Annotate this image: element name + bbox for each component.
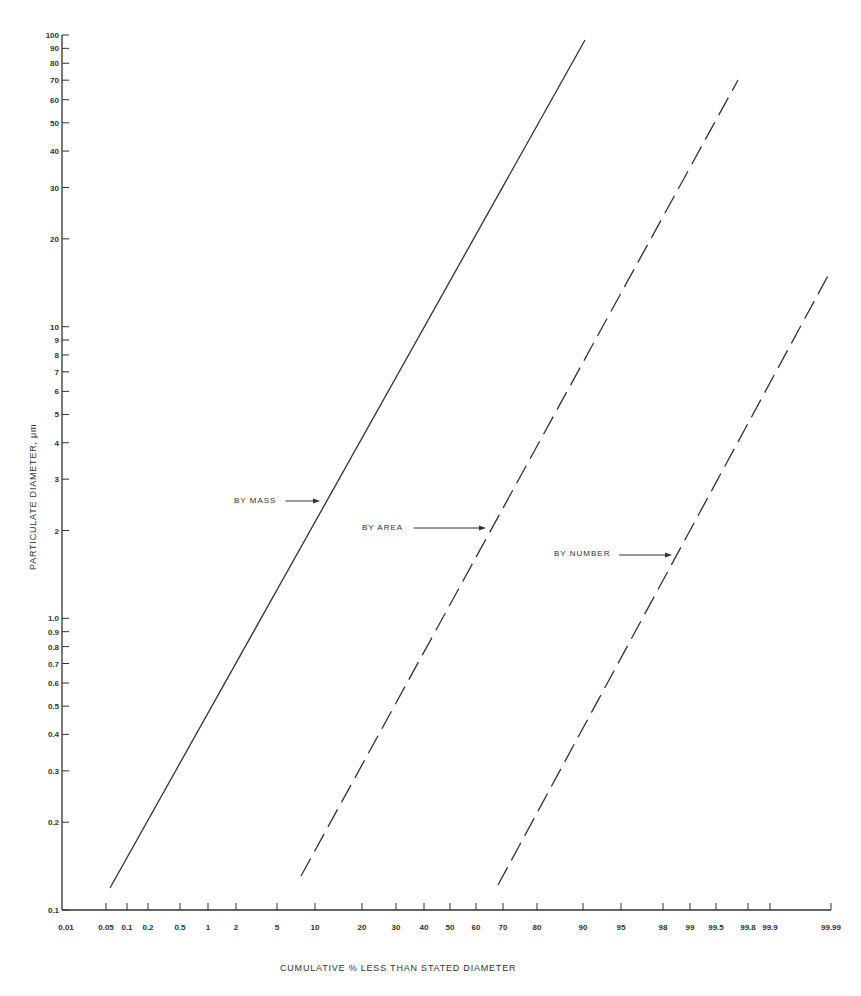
y-axis-title: PARTICULATE DIAMETER, μm — [28, 424, 38, 570]
series-lines — [110, 40, 830, 888]
x-tick-label: 99.9 — [762, 923, 778, 932]
series-line-by-number — [498, 272, 830, 885]
x-tick-label: 99.5 — [708, 923, 724, 932]
x-tick-label: 20 — [358, 923, 367, 932]
y-tick-label: 0.8 — [48, 643, 60, 652]
x-tick-label: 50 — [446, 923, 455, 932]
particle-size-chart: 100908070605040302010987654321.00.90.80.… — [0, 0, 861, 996]
x-tick-label: 1 — [206, 923, 211, 932]
x-tick-label: 80 — [533, 923, 542, 932]
y-tick-label: 0.9 — [48, 628, 60, 637]
y-tick-label: 30 — [50, 184, 59, 193]
axes — [62, 35, 831, 910]
y-tick-label: 0.5 — [48, 702, 60, 711]
x-tick-label: 0.2 — [142, 923, 154, 932]
y-tick-label: 9 — [55, 336, 60, 345]
y-tick-label: 70 — [50, 76, 59, 85]
x-tick-label: 0.01 — [58, 923, 74, 932]
y-tick-label: 0.1 — [48, 906, 60, 915]
x-tick-label: 0.05 — [98, 923, 114, 932]
label-by-number: BY NUMBER — [554, 549, 610, 558]
y-tick-label: 0.3 — [48, 767, 60, 776]
y-tick-label: 100 — [46, 31, 60, 40]
x-tick-label: 99.8 — [740, 923, 756, 932]
x-tick-label: 60 — [472, 923, 481, 932]
y-tick-label: 10 — [50, 323, 59, 332]
x-tick-label: 90 — [579, 923, 588, 932]
y-tick-label: 7 — [55, 368, 60, 377]
x-tick-label: 5 — [275, 923, 280, 932]
y-tick-label: 4 — [55, 439, 60, 448]
x-tick-label: 30 — [392, 923, 401, 932]
y-tick-label: 8 — [55, 351, 60, 360]
x-tick-label: 2 — [234, 923, 239, 932]
x-axis-title: CUMULATIVE % LESS THAN STATED DIAMETER — [280, 963, 516, 973]
x-axis-ticks: 0.010.050.10.20.512510203040506070809095… — [58, 903, 841, 932]
x-tick-label: 40 — [420, 923, 429, 932]
label-by-mass: BY MASS — [234, 496, 276, 505]
y-tick-label: 40 — [50, 147, 59, 156]
y-tick-label: 20 — [50, 235, 59, 244]
y-tick-label: 6 — [55, 387, 60, 396]
y-tick-label: 5 — [55, 410, 60, 419]
y-tick-label: 0.6 — [48, 679, 60, 688]
y-tick-label: 1.0 — [48, 614, 60, 623]
arrowhead-icon — [479, 526, 486, 531]
x-tick-label: 0.1 — [121, 923, 133, 932]
x-tick-label: 98 — [659, 923, 668, 932]
series-line-by-area — [301, 80, 738, 876]
x-tick-label: 95 — [617, 923, 626, 932]
y-tick-label: 0.2 — [48, 818, 60, 827]
y-tick-label: 3 — [55, 475, 60, 484]
y-tick-label: 50 — [50, 119, 59, 128]
x-tick-label: 99.99 — [821, 923, 842, 932]
x-tick-label: 70 — [499, 923, 508, 932]
y-tick-label: 80 — [50, 59, 59, 68]
y-tick-label: 0.7 — [48, 660, 60, 669]
x-tick-label: 10 — [311, 923, 320, 932]
x-tick-label: 99 — [686, 923, 695, 932]
series-line-by-mass — [110, 40, 585, 888]
arrowhead-icon — [665, 553, 672, 558]
y-tick-label: 60 — [50, 96, 59, 105]
label-by-area: BY AREA — [362, 523, 403, 532]
y-tick-label: 90 — [50, 44, 59, 53]
x-tick-label: 0.5 — [174, 923, 186, 932]
y-tick-label: 0.4 — [48, 730, 60, 739]
y-axis-ticks: 100908070605040302010987654321.00.90.80.… — [46, 31, 69, 915]
arrowhead-icon — [313, 499, 320, 504]
y-tick-label: 2 — [55, 527, 60, 536]
